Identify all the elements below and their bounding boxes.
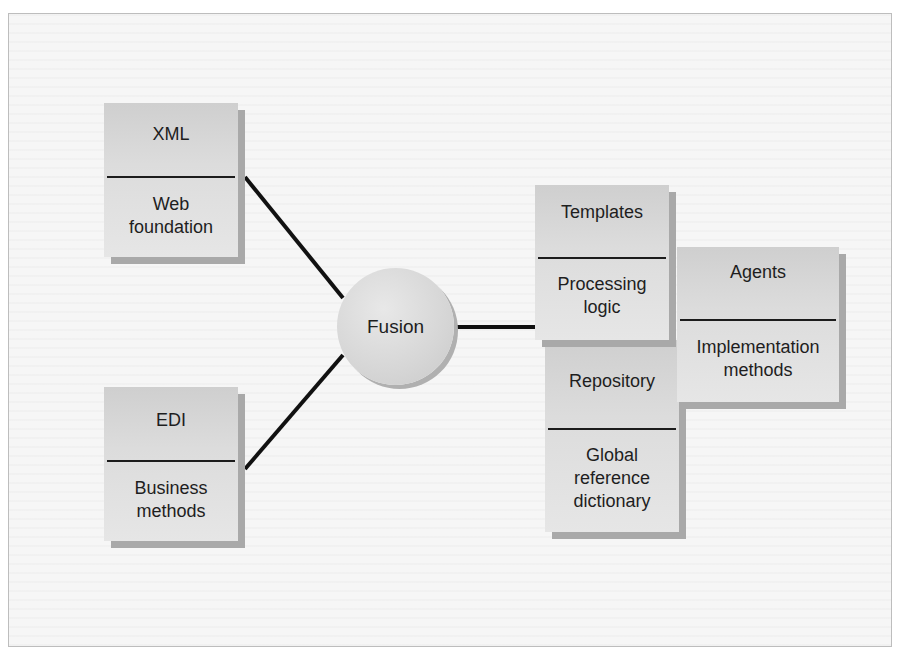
node-repository: Repository Global reference dictionary [545, 340, 679, 532]
node-divider [680, 319, 836, 321]
node-agents: Agents Implementation methods [677, 247, 839, 402]
node-subtitle: Implementation methods [677, 336, 839, 382]
node-xml: XML Web foundation [104, 103, 238, 257]
node-title: EDI [104, 409, 238, 432]
node-title: Fusion [367, 316, 424, 338]
connector-xml-fusion [245, 177, 343, 298]
node-title: Repository [545, 370, 679, 393]
node-title: XML [104, 123, 238, 146]
node-subtitle: Global reference dictionary [545, 444, 679, 513]
node-templates: Templates Processing logic [535, 185, 669, 340]
node-divider [548, 428, 676, 430]
connector-edi-fusion [245, 355, 343, 469]
node-divider [107, 176, 235, 178]
node-divider [538, 257, 666, 259]
node-divider [107, 460, 235, 462]
node-title: Agents [677, 261, 839, 284]
node-fusion: Fusion [337, 268, 454, 385]
node-subtitle: Web foundation [104, 193, 238, 239]
node-subtitle: Processing logic [535, 273, 669, 319]
node-title: Templates [535, 201, 669, 224]
node-subtitle: Business methods [104, 477, 238, 523]
node-edi: EDI Business methods [104, 387, 238, 541]
